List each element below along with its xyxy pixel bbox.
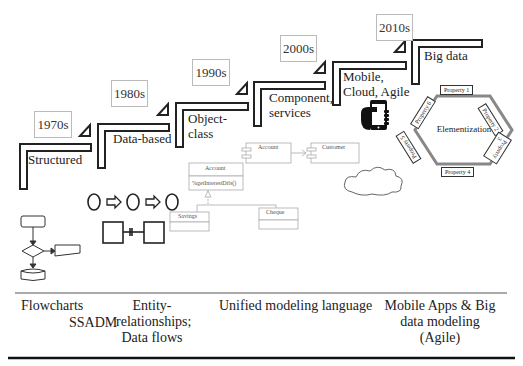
step-label-data-based: Data-based [113, 131, 171, 146]
year-box-1970s: 1970s [34, 111, 72, 138]
step-label-mobile-cloud-agile: Mobile, Cloud, Agile [343, 69, 409, 99]
year-box-1980s: 1980s [111, 80, 148, 107]
step-label-object-class: Object- class [188, 111, 227, 141]
uml-class-method: %getInterestDtls() [192, 180, 236, 186]
bottom-label-flowcharts: Flowcharts [21, 298, 83, 314]
uml-component-account: Account [258, 144, 278, 150]
step-label-component-services: Component, services [269, 90, 333, 120]
phone-icon [361, 100, 389, 130]
bottom-label-er: Entity- relationships; Data flows [116, 298, 188, 346]
step-label-structured: Structured [28, 152, 82, 167]
step-label-big-data: Big data [424, 48, 468, 63]
bottom-label-mobile: Mobile Apps & Big data modeling (Agile) [380, 298, 500, 346]
year-box-2000s: 2000s [280, 35, 317, 62]
year-box-1990s: 1990s [192, 59, 230, 86]
uml-subclass-savings: Savings [178, 213, 197, 219]
bottom-label-uml: Unified modeling language [219, 298, 372, 314]
property-1: Property 1 [440, 85, 473, 95]
uml-class-name: Account [205, 165, 225, 171]
uml-subclass-cheque: Cheque [266, 209, 284, 215]
uml-component-customer: Customer [322, 144, 345, 150]
year-box-2010s: 2010s [376, 14, 413, 41]
elementization-center: Elementization [435, 124, 493, 134]
bottom-label-ssadm: SSADM [69, 315, 117, 331]
property-4: Property 4 [441, 167, 474, 177]
